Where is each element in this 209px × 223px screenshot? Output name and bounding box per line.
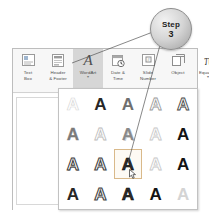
wordart-style-preview-letter: A <box>122 126 134 143</box>
wordart-style-preview-letter: A <box>177 96 189 113</box>
wordart-style-cell[interactable]: A <box>142 119 170 149</box>
wordart-style-preview-letter: A <box>177 186 189 203</box>
wordart-style-cell[interactable]: A <box>87 179 115 209</box>
screenshot-root: TextBoxHeader& FooterAWordArt▾Date &Time… <box>0 0 209 223</box>
ribbon-button-label: Object <box>163 70 193 75</box>
ribbon-button-object[interactable]: Object <box>163 49 193 92</box>
wordart-style-cell[interactable]: A <box>114 149 142 179</box>
wordart-style-cell[interactable]: A <box>142 149 170 179</box>
ribbon-button-label: Text <box>13 70 43 75</box>
ribbon-button-label: Slide <box>133 70 163 75</box>
slide-thumbnail-pane[interactable] <box>16 97 62 205</box>
wordart-style-cell[interactable]: A <box>169 149 197 179</box>
wordart-style-preview-letter: A <box>67 186 79 203</box>
ribbon-button-label-2: Number <box>133 76 163 81</box>
wordart-icon: A <box>83 52 92 68</box>
wordart-style-preview-letter: A <box>94 126 106 143</box>
wordart-style-preview-letter: A <box>122 96 134 113</box>
ribbon-button-label: Header <box>43 70 73 75</box>
wordart-style-preview-letter: A <box>149 126 161 143</box>
ribbon-button-header-footer[interactable]: Header& Footer <box>43 49 73 92</box>
header-footer-icon <box>52 52 64 68</box>
text-box-icon <box>22 52 35 68</box>
wordart-style-cell[interactable]: A <box>169 179 197 209</box>
chevron-down-icon[interactable]: ▾ <box>87 75 89 79</box>
step-callout-number: 3 <box>168 29 173 39</box>
slide-number-icon: # <box>142 52 155 68</box>
object-icon <box>172 52 185 68</box>
wordart-style-preview-letter: A <box>149 96 161 113</box>
step-callout-badge: Step 3 <box>150 8 192 50</box>
wordart-style-preview-letter: A <box>122 186 134 203</box>
chevron-down-icon[interactable]: ▾ <box>207 75 209 79</box>
wordart-style-cell[interactable]: A <box>169 89 197 119</box>
wordart-style-cell[interactable]: A <box>114 89 142 119</box>
wordart-style-grid: AAAAAAAAAAAAAAAAAAAA <box>59 89 197 209</box>
wordart-style-cell[interactable]: A <box>142 179 170 209</box>
wordart-style-preview-letter: A <box>177 156 189 173</box>
ribbon-button-equation-pi[interactable]: πEquation▾ <box>193 49 209 92</box>
wordart-style-cell[interactable]: A <box>87 119 115 149</box>
wordart-style-preview-letter: A <box>149 156 161 173</box>
wordart-style-cell[interactable]: A <box>59 119 87 149</box>
wordart-style-preview-letter: A <box>94 96 106 113</box>
wordart-style-cell[interactable]: A <box>59 89 87 119</box>
ribbon-button-label-2: Time <box>103 76 133 81</box>
wordart-style-cell[interactable]: A <box>114 119 142 149</box>
wordart-style-preview-letter: A <box>122 156 134 173</box>
wordart-style-preview-letter: A <box>67 156 79 173</box>
wordart-style-cell[interactable]: A <box>87 149 115 179</box>
wordart-style-cell[interactable]: A <box>59 149 87 179</box>
ribbon-button-wordart[interactable]: AWordArt▾ <box>73 49 103 92</box>
ribbon-button-label-2: & Footer <box>43 76 73 81</box>
wordart-style-cell[interactable]: A <box>142 89 170 119</box>
wordart-style-preview-letter: A <box>94 156 106 173</box>
ribbon-button-label-2: Box <box>13 76 43 81</box>
wordart-style-preview-letter: A <box>67 126 79 143</box>
wordart-style-cell[interactable]: A <box>59 179 87 209</box>
ribbon-button-date-time[interactable]: Date &Time <box>103 49 133 92</box>
ribbon-button-label: Date & <box>103 70 133 75</box>
step-callout-word: Step <box>162 20 180 29</box>
wordart-style-gallery[interactable]: AAAAAAAAAAAAAAAAAAAA <box>58 88 198 210</box>
wordart-style-preview-letter: A <box>177 126 189 143</box>
wordart-style-preview-letter: A <box>67 96 79 113</box>
ribbon-text-group: TextBoxHeader& FooterAWordArt▾Date &Time… <box>13 49 197 93</box>
ribbon-button-text-box[interactable]: TextBox <box>13 49 43 92</box>
ribbon-button-slide-number[interactable]: #SlideNumber <box>133 49 163 92</box>
wordart-style-preview-letter: A <box>149 186 161 203</box>
equation-pi-icon: π <box>204 52 209 68</box>
wordart-style-cell[interactable]: A <box>114 179 142 209</box>
wordart-style-preview-letter: A <box>94 186 106 203</box>
wordart-style-cell[interactable]: A <box>169 119 197 149</box>
date-time-icon <box>112 52 125 68</box>
wordart-style-cell[interactable]: A <box>87 89 115 119</box>
